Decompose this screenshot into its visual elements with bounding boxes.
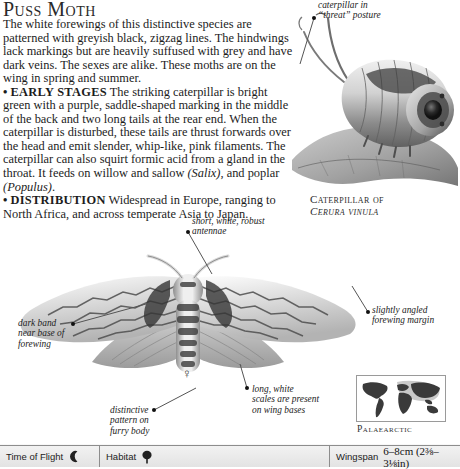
female-symbol: ♀ — [182, 366, 192, 382]
heading-early-stages: EARLY STAGES — [10, 85, 106, 99]
caption-caterpillar-species: Cerura vinula — [310, 205, 379, 217]
time-of-flight-cell: Time of Flight — [0, 446, 100, 467]
caption-caterpillar-threat: caterpillar in “threat” posture — [318, 0, 381, 21]
caption-antennae: short, white, robust antennae — [192, 216, 265, 237]
caption-forewing-margin: slightly angled forewing margin — [372, 305, 434, 326]
species-data-bar: Time of Flight Habitat Wingspan 6–8cm (2… — [0, 445, 460, 467]
description-text: The white forewings of this distinctive … — [3, 17, 292, 85]
caption-wing-scales: long, white scales are present on wing b… — [252, 384, 319, 415]
bullet-glyph-2: • — [3, 193, 7, 207]
heading-distribution: DISTRIBUTION — [10, 193, 105, 207]
caption-caterpillar-of: Caterpillar of — [310, 193, 384, 205]
wingspan-label: Wingspan — [336, 451, 378, 462]
wingspan-cell: Wingspan 6–8cm (2⅜–3⅛in) — [330, 446, 460, 467]
map-region-label: Palaearctic — [357, 423, 412, 434]
world-map-svg — [357, 376, 445, 421]
caption-dark-band: dark band near base of forewing — [18, 318, 64, 349]
bullet-glyph: • — [3, 85, 7, 99]
habitat-label: Habitat — [106, 451, 136, 462]
habitat-cell: Habitat — [100, 446, 330, 467]
leader-furry-body — [152, 388, 202, 418]
wingspan-value: 6–8cm (2⅜–3⅛in) — [383, 445, 454, 469]
leader-dark-band — [68, 302, 158, 332]
paragraph-early-stages: • EARLY STAGES The striking caterpillar … — [3, 86, 295, 194]
caption-furry-body: distinctive pattern on furry body — [110, 405, 149, 436]
early-stages-text: The striking caterpillar is bright green… — [3, 85, 291, 194]
crescent-moon-icon — [68, 450, 80, 463]
distribution-map — [356, 375, 446, 422]
deciduous-tree-icon — [141, 450, 153, 464]
paragraph-description: The white forewings of this distinctive … — [3, 18, 295, 86]
species-description: The white forewings of this distinctive … — [3, 18, 295, 221]
time-of-flight-label: Time of Flight — [6, 451, 63, 462]
